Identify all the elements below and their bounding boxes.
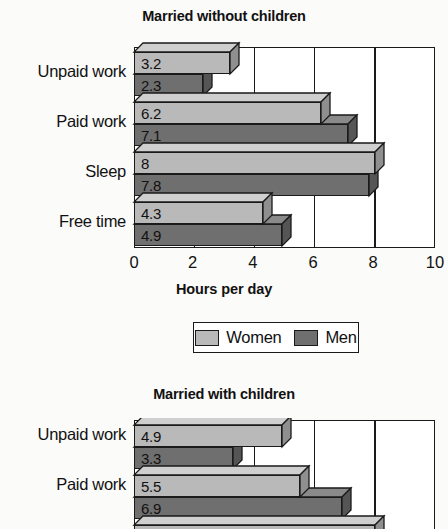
x-tick-10: 10 <box>415 253 448 272</box>
bar-value-label: 5.5 <box>141 478 161 495</box>
x-axis-title: Hours per day <box>0 281 448 297</box>
category-label-sleep-1: Sleep <box>0 162 126 181</box>
bar-women-paid-work-1: 6.2 <box>134 102 321 124</box>
bar-value-label: 7.8 <box>141 177 161 194</box>
legend-item-women: Women <box>195 328 281 347</box>
x-tick-6: 6 <box>293 253 333 272</box>
legend-label-women: Women <box>226 328 281 347</box>
x-tick-0: 0 <box>114 253 154 272</box>
bar-value-label: 7.1 <box>141 127 161 144</box>
bar-women-free-time-1: 4.3 <box>134 202 263 224</box>
bar-men-free-time-1: 4.9 <box>134 224 282 246</box>
bar-front-face <box>134 152 375 174</box>
bar-value-label: 6.9 <box>141 500 161 517</box>
x-tick-2: 2 <box>173 253 213 272</box>
bar-women-sleep-1: 8 <box>134 152 375 174</box>
category-label-paid-work-1: Paid work <box>0 112 126 131</box>
bar-women-paid-work-2: 5.5 <box>134 475 300 497</box>
x-tick-4: 4 <box>233 253 273 272</box>
chart-married-with-children: Married with children Unpaid work Paid w… <box>0 380 448 529</box>
bar-value-label: 2.3 <box>141 77 161 94</box>
bar-value-label: 4.3 <box>141 205 161 222</box>
chart-title-2: Married with children <box>0 386 448 402</box>
legend-item-men: Men <box>294 328 356 347</box>
legend-label-men: Men <box>325 328 356 347</box>
legend-swatch-men-icon <box>294 330 318 346</box>
bar-women-unpaid-work-1: 3.2 <box>134 52 230 74</box>
plot-clip-2: 4.9 3.3 5.5 6. <box>0 418 448 529</box>
chart-married-without-children: Married without children Unpaid work Pai… <box>0 0 448 360</box>
bar-front-face <box>134 102 321 124</box>
bar-value-label: 4.9 <box>141 428 161 445</box>
bar-women-unpaid-work-2: 4.9 <box>134 425 282 447</box>
bar-women-next-group-partial <box>134 525 375 529</box>
chart-title-1: Married without children <box>0 8 448 24</box>
category-label-free-time-1: Free time <box>0 212 126 231</box>
legend-swatch-women-icon <box>195 330 219 346</box>
x-tick-8: 8 <box>353 253 393 272</box>
bar-value-label: 3.3 <box>141 450 161 467</box>
bar-value-label: 3.2 <box>141 55 161 72</box>
bar-value-label: 4.9 <box>141 227 161 244</box>
bar-front-face <box>134 525 375 529</box>
category-label-unpaid-work-1: Unpaid work <box>0 62 126 81</box>
bar-value-label: 6.2 <box>141 105 161 122</box>
bar-value-label: 8 <box>141 155 149 172</box>
gridline-8 <box>374 421 375 529</box>
chart-legend: Women Men <box>193 322 359 353</box>
